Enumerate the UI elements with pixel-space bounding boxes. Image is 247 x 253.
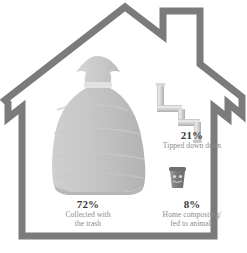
stat-label-drain: Tipped down drain — [144, 142, 240, 151]
stat-percent-drain: 21% — [144, 129, 240, 141]
trash-bag-icon — [52, 56, 145, 195]
stat-tipped-down-drain: 21% Tipped down drain — [144, 129, 240, 151]
stat-label-compost: Home composting/ fed to animals — [142, 211, 242, 228]
stat-percent-trash: 72% — [28, 198, 148, 210]
fat-disposal-infographic: 72% Collected with the trash 21% Tipped … — [0, 0, 247, 253]
compost-bin-icon — [169, 167, 186, 188]
stat-percent-compost: 8% — [142, 198, 242, 210]
stat-collected-with-trash: 72% Collected with the trash — [28, 198, 148, 228]
stat-label-trash: Collected with the trash — [28, 211, 148, 228]
stat-home-composting: 8% Home composting/ fed to animals — [142, 198, 242, 228]
